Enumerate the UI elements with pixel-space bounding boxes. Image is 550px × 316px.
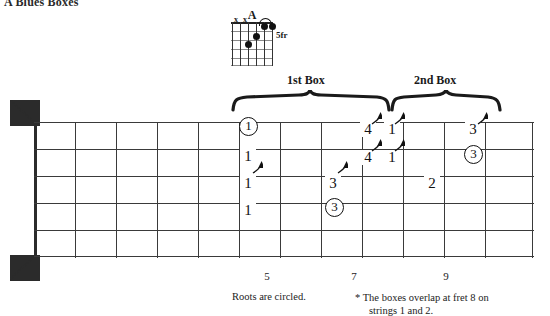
chord-string-5 — [240, 22, 241, 66]
chord-string-3 — [256, 22, 257, 66]
slide-arrow-1 — [252, 161, 263, 174]
fretboard-fret-12 — [532, 122, 533, 258]
blues-boxes-figure: A Blues Boxes A x x 5fr 1st Box — [0, 0, 550, 316]
chord-fret-line-1 — [231, 31, 273, 32]
note-marker-8: 4 — [360, 150, 376, 165]
fretboard-fret-1 — [75, 122, 76, 258]
note-marker-3: 1 — [240, 176, 256, 191]
brace-2nd-box — [390, 90, 502, 112]
chord-string-6 — [232, 22, 233, 66]
slide-arrow-3 — [371, 112, 382, 125]
fret-number-5: 5 — [258, 270, 276, 282]
headstock-line-bottom — [10, 255, 40, 281]
fret-number-9: 9 — [437, 270, 455, 282]
note-marker-4: 1 — [240, 203, 256, 218]
chord-grid — [231, 22, 273, 66]
chord-fret-line-3 — [231, 49, 273, 50]
caption-footnote-line1: * The boxes overlap at fret 8 on — [355, 292, 489, 303]
page-title: A Blues Boxes — [4, 0, 79, 10]
chord-dot-string-1 — [269, 23, 276, 30]
caption-footnote: * The boxes overlap at fret 8 on strings… — [355, 291, 525, 316]
slide-arrow-5 — [371, 139, 382, 152]
chord-dot-string-4 — [245, 41, 252, 48]
note-marker-root-1: 1 — [239, 117, 258, 136]
note-marker-root-3: 3 — [464, 145, 483, 164]
fretboard — [34, 122, 534, 258]
slide-arrow-4 — [394, 112, 405, 125]
fretboard-nut — [34, 122, 37, 258]
fretboard-fret-2 — [116, 122, 117, 258]
fretboard-string-2 — [34, 149, 534, 150]
note-marker-9: 1 — [384, 150, 400, 165]
fretboard-fret-11 — [485, 122, 486, 258]
chord-dot-string-3 — [253, 33, 260, 40]
box-label-2nd: 2nd Box — [414, 73, 456, 88]
note-marker-root-2: 3 — [325, 198, 344, 217]
chord-dot-string-2 — [261, 23, 268, 30]
fretboard-fret-3 — [157, 122, 158, 258]
slide-arrow-7 — [477, 112, 488, 125]
fretboard-string-5 — [34, 230, 534, 231]
chord-fret-line-4 — [231, 58, 273, 59]
chord-fret-line-2 — [231, 40, 273, 41]
fretboard-fret-10 — [444, 122, 445, 258]
fretboard-fret-8 — [362, 122, 363, 258]
caption-footnote-line2: strings 1 and 2. — [355, 304, 525, 316]
note-marker-10: 2 — [424, 176, 440, 191]
chord-fret-line-5 — [231, 65, 273, 66]
fretboard-fret-4 — [198, 122, 199, 258]
fret-number-7: 7 — [345, 270, 363, 282]
fretboard-string-4 — [34, 203, 534, 204]
caption-roots-circled: Roots are circled. — [232, 291, 306, 302]
fretboard-fret-6 — [280, 122, 281, 258]
note-marker-5: 3 — [325, 176, 341, 191]
slide-arrow-2 — [337, 161, 348, 174]
slide-arrow-6 — [394, 139, 405, 152]
fretboard-fret-7 — [321, 122, 322, 258]
fretboard-string-3 — [34, 176, 534, 177]
box-label-1st: 1st Box — [287, 73, 325, 88]
chord-position-label: 5fr — [276, 30, 288, 40]
brace-1st-box — [231, 90, 391, 112]
fretboard-string-1 — [34, 122, 534, 123]
fretboard-string-6 — [34, 256, 534, 257]
